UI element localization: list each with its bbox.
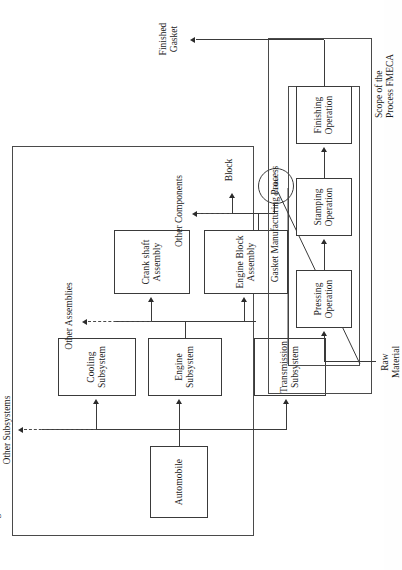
arrow-pressing-to-stamping (321, 239, 327, 244)
engine-block-out-line (258, 214, 259, 230)
block-cooling-subsystem-label: Cooling Subsystem (86, 339, 107, 395)
arrow-to-block-component (229, 193, 235, 198)
arrow-finished-gasket (190, 37, 195, 43)
block-engine-block-assembly-label: Engine Block Assembly (235, 231, 256, 293)
arrow-other-components (192, 211, 197, 217)
finished-gasket-line-v (196, 39, 324, 40)
label-other-components: Other Components (174, 148, 185, 274)
arrow-stamping-to-finishing (321, 147, 327, 152)
arrow-to-engine-block (241, 297, 247, 302)
arrow-to-engine (176, 399, 182, 404)
raw-material-line (324, 334, 325, 362)
block-finishing-operation: Finishing Operation (296, 86, 352, 144)
block-automobile-label: Automobile (174, 459, 185, 505)
line-to-engine-block (244, 300, 245, 322)
line-to-crankshaft (151, 300, 152, 322)
line-to-transmission (286, 402, 287, 430)
label-other-assemblies: Other Assemblies (64, 254, 75, 378)
block-pressing-operation-label: Pressing Operation (313, 271, 334, 327)
arrow-to-cooling (93, 399, 99, 404)
engine-out-line (185, 322, 186, 338)
block-engine-subsystem: Engine Subsystem (148, 338, 222, 396)
label-raw-material: Raw Material (380, 332, 402, 392)
dashed-other-assemblies-vert (88, 321, 152, 322)
label-block-component: Block (224, 148, 235, 192)
arrow-other-assemblies (82, 319, 87, 325)
block-finishing-operation-label: Finishing Operation (313, 87, 334, 143)
arrow-raw-material (321, 331, 327, 336)
arrow-to-transmission (283, 399, 289, 404)
block-crank-shaft-assembly-label: Crank shaft Assembly (141, 231, 162, 293)
label-finished-gasket: Finished Gasket (158, 8, 180, 70)
raw-material-line-v (324, 361, 376, 362)
line-to-block-component (232, 196, 233, 214)
line-to-engine (179, 402, 180, 430)
finished-gasket-line (324, 40, 325, 86)
scope-process-fmeca-label: Scope of the Process FMECA (374, 0, 396, 118)
block-stamping-operation: Stamping Operation (296, 178, 352, 236)
line-stamping-to-finishing (324, 150, 325, 178)
arrow-to-crankshaft (148, 297, 154, 302)
block-pressing-operation: Pressing Operation (296, 270, 352, 328)
label-other-subsystems: Other Subsystems (2, 368, 13, 492)
gasket-to-process-leader (272, 134, 382, 374)
line-to-cooling (96, 402, 97, 430)
block-automobile: Automobile (150, 446, 208, 518)
arrow-other-subsystems (18, 427, 23, 433)
block-stamping-operation-label: Stamping Operation (313, 179, 334, 235)
dashed-other-subsystems-vert (24, 429, 96, 430)
line-pressing-to-stamping (324, 242, 325, 270)
automobile-out-line (179, 430, 180, 446)
block-engine-subsystem-label: Engine Subsystem (174, 339, 195, 395)
dashed-other-components-vert (198, 213, 232, 214)
